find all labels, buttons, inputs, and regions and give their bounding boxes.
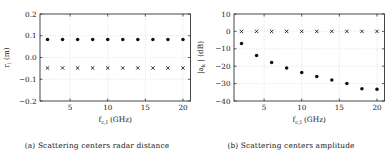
data-point-dot [330, 78, 334, 82]
xtick-label-2: 15 [335, 103, 345, 112]
xtick-label-0: 5 [262, 103, 267, 112]
data-point-dot [300, 71, 304, 75]
data-point-dot [255, 54, 259, 58]
data-point-dot [240, 42, 244, 46]
xtick-label-0: 5 [68, 103, 73, 112]
data-point-cross [315, 30, 318, 33]
data-point-cross [151, 66, 154, 69]
data-point-cross [345, 30, 348, 33]
xtick-label-3: 20 [372, 103, 382, 112]
data-point-cross [46, 66, 49, 69]
data-point-dot [151, 38, 155, 42]
data-series-0-dot [46, 38, 185, 42]
ytick-label-3: 0.1 [25, 31, 36, 40]
data-point-cross [300, 30, 303, 33]
ytick-label-0: −0.2 [19, 97, 36, 106]
data-point-cross [121, 66, 124, 69]
data-point-dot [181, 38, 185, 42]
data-point-dot [46, 38, 50, 42]
x-axis-title: fc,l (GHz) [293, 115, 326, 125]
ytick-label-1: −0.1 [19, 75, 36, 84]
data-point-dot [285, 66, 289, 70]
xtick-label-1: 10 [297, 103, 307, 112]
data-point-dot [106, 38, 110, 42]
y-axis-title: |ak | (dB) [196, 41, 206, 74]
xtick-label-3: 20 [178, 103, 188, 112]
y-axis-title: ri (m) [2, 47, 12, 67]
ytick-label-3: −10 [215, 44, 231, 53]
plot-b-amplitude: 5101520−40−30−20−10010fc,l (GHz)|ak | (d… [194, 0, 388, 128]
data-point-dot [76, 38, 80, 42]
data-point-dot [166, 38, 170, 42]
data-series-1-cross [46, 66, 185, 69]
figure-two-panel-scatter: 5101520−0.2−0.10.00.10.2fc,l (GHz)ri (m)… [0, 0, 388, 151]
xtick-label-2: 15 [141, 103, 151, 112]
data-point-cross [255, 30, 258, 33]
data-point-dot [91, 38, 95, 42]
caption-b: (b) Scattering centers amplitude [194, 142, 388, 149]
data-point-dot [375, 88, 379, 92]
data-point-cross [330, 30, 333, 33]
subfigure-a: 5101520−0.2−0.10.00.10.2fc,l (GHz)ri (m)… [0, 0, 194, 151]
data-point-dot [315, 75, 319, 79]
ytick-label-2: −20 [215, 62, 231, 71]
subfigure-b: 5101520−40−30−20−10010fc,l (GHz)|ak | (d… [194, 0, 388, 151]
data-point-cross [76, 66, 79, 69]
ytick-label-2: 0.0 [25, 53, 37, 62]
ytick-label-1: −30 [215, 79, 231, 88]
chart-a-svg: 5101520−0.2−0.10.00.10.2fc,l (GHz)ri (m) [0, 0, 194, 128]
data-point-cross [61, 66, 64, 69]
data-point-dot [270, 61, 274, 65]
data-point-cross [91, 66, 94, 69]
data-point-cross [375, 30, 378, 33]
plot-a-radar-distance: 5101520−0.2−0.10.00.10.2fc,l (GHz)ri (m) [0, 0, 194, 128]
caption-a: (a) Scattering centers radar distance [0, 142, 194, 149]
xtick-label-1: 10 [103, 103, 113, 112]
ytick-label-5: 10 [221, 10, 231, 19]
data-point-dot [121, 38, 125, 42]
data-point-cross [240, 30, 243, 33]
ytick-label-4: 0 [226, 27, 231, 36]
ytick-label-4: 0.2 [25, 10, 36, 19]
data-point-dot [345, 82, 349, 86]
data-point-dot [61, 38, 65, 42]
data-point-dot [136, 38, 140, 42]
x-axis-title: fc,l (GHz) [99, 115, 132, 125]
chart-b-svg: 5101520−40−30−20−10010fc,l (GHz)|ak | (d… [194, 0, 388, 128]
ytick-label-0: −40 [215, 97, 231, 106]
data-point-cross [270, 30, 273, 33]
data-point-cross [285, 30, 288, 33]
data-point-cross [166, 66, 169, 69]
data-point-dot [360, 87, 364, 91]
data-point-cross [360, 30, 363, 33]
data-point-cross [136, 66, 139, 69]
